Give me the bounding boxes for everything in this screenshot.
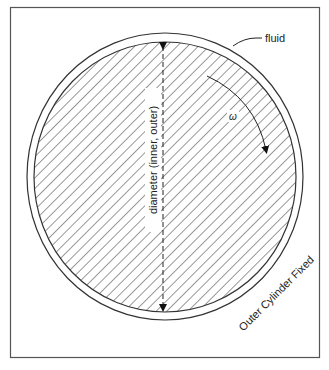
couette-diagram: fluid ω diameter (inner, outer) Outer Cy… [0,0,329,370]
fluid-label: fluid [265,32,285,44]
inner-cylinder [34,42,296,312]
diameter-label: diameter (inner, outer) [147,106,159,214]
omega-label: ω [229,111,237,122]
fluid-leader-line [233,38,262,46]
